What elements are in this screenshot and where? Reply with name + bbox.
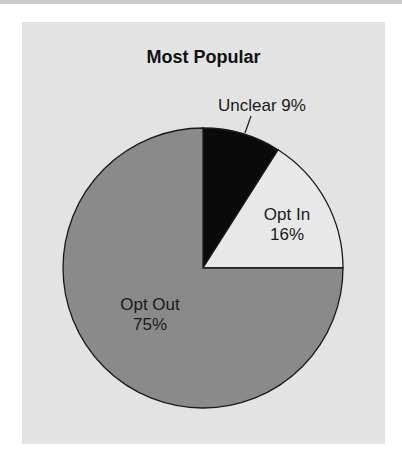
label-opt-out-value: 75% [110,315,190,335]
label-opt-in: Opt In 16% [254,205,320,245]
label-unclear: Unclear 9% [218,96,306,116]
label-opt-out-name: Opt Out [110,295,190,315]
label-opt-out: Opt Out 75% [110,295,190,335]
unclear-leader-line [245,116,251,133]
label-opt-in-value: 16% [254,225,320,245]
chart-panel: Most Popular Unclear 9% Opt In 16% Opt O… [22,22,385,444]
label-opt-in-name: Opt In [254,205,320,225]
top-band [0,0,402,4]
pie-chart [22,22,385,444]
label-unclear-text: Unclear 9% [218,96,306,115]
